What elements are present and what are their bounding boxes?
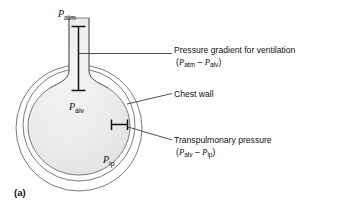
- label-intrapleural-pressure: Pip: [103, 154, 115, 165]
- callout-transpulmonary-pressure: Transpulmonary pressure: [174, 135, 272, 146]
- callout-pressure-gradient-formula: (Patm – Palv): [176, 57, 221, 68]
- panel-caption: (a): [14, 187, 26, 198]
- callout-pressure-gradient: Pressure gradient for ventilation: [174, 45, 295, 56]
- label-atmospheric-pressure: Patm: [58, 8, 76, 19]
- label-alveolar-pressure: Palv: [69, 101, 84, 112]
- callout-chest-wall: Chest wall: [174, 89, 214, 100]
- respiratory-pressures-diagram: [0, 0, 342, 219]
- callout-transpulmonary-pressure-formula: (Palv – Pip): [176, 147, 215, 158]
